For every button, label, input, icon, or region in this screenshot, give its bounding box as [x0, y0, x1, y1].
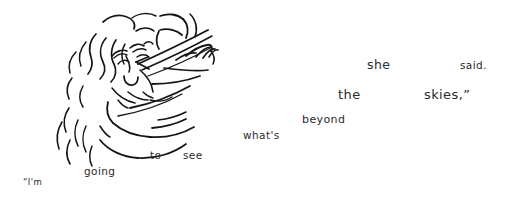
- word-going: going: [84, 166, 115, 177]
- word-im: “I'm: [23, 178, 42, 187]
- word-the: the: [338, 88, 361, 101]
- word-beyond: beyond: [302, 114, 345, 125]
- word-skies: skies,”: [424, 88, 470, 101]
- word-see: see: [183, 150, 203, 161]
- artwork-canvas: “I'm going to see what's beyond the skie…: [0, 0, 506, 200]
- word-whats: what's: [243, 130, 280, 141]
- word-to: to: [150, 150, 161, 161]
- word-said: said.: [460, 60, 487, 71]
- word-she: she: [367, 59, 390, 72]
